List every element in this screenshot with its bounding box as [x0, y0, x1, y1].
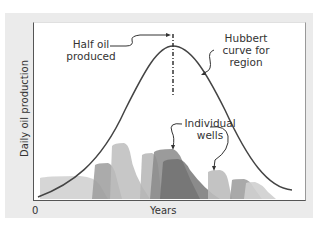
hubbert-label: Hubbert curve for region	[216, 32, 276, 68]
wells-line2: wells	[180, 129, 240, 141]
half-oil-line2: produced	[66, 50, 116, 62]
hubbert-line1: Hubbert	[216, 32, 276, 44]
half-oil-line1: Half oil	[66, 38, 116, 50]
hubbert-line2: curve for	[216, 44, 276, 56]
x-axis-label: Years	[150, 205, 176, 216]
wells-label: Individual wells	[180, 117, 240, 141]
y-axis-label: Daily oil production	[19, 54, 30, 164]
individual-wells	[40, 143, 276, 199]
x-origin-tick: 0	[32, 205, 38, 216]
wells-line1: Individual	[180, 117, 240, 129]
half-oil-label: Half oil produced	[66, 38, 116, 62]
hubbert-line3: region	[216, 56, 276, 68]
